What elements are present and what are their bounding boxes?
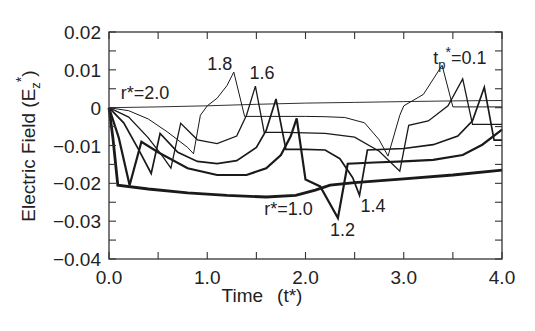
curve-label: tp*=0.1 bbox=[433, 44, 486, 72]
curve-label: r*=1.0 bbox=[264, 199, 313, 219]
y-tick-label: −0.02 bbox=[53, 173, 101, 194]
y-tick-label: 0 bbox=[90, 98, 101, 119]
series-line-5 bbox=[109, 108, 502, 197]
y-tick-label: −0.03 bbox=[53, 211, 101, 232]
curve-label: 1.4 bbox=[361, 196, 386, 216]
curve-annotations: r*=2.01.81.6tp*=0.1r*=1.01.41.2 bbox=[121, 44, 487, 239]
curve-label: 1.6 bbox=[249, 63, 274, 83]
electric-field-chart: 0.01.02.03.04.00.020.010−0.01−0.02−0.03−… bbox=[0, 0, 535, 331]
curve-label: 1.2 bbox=[330, 220, 355, 240]
y-tick-label: 0.02 bbox=[64, 22, 101, 43]
y-tick-label: 0.01 bbox=[64, 60, 101, 81]
x-tick-label: 4.0 bbox=[489, 267, 515, 288]
x-tick-label: 1.0 bbox=[194, 267, 220, 288]
x-tick-label: 0.0 bbox=[96, 267, 122, 288]
y-tick-label: −0.01 bbox=[53, 136, 101, 157]
curve-label: 1.8 bbox=[207, 54, 232, 74]
x-tick-label: 3.0 bbox=[391, 267, 417, 288]
y-tick-label: −0.04 bbox=[53, 249, 102, 270]
x-axis-title: Time(t*) bbox=[222, 285, 303, 306]
y-axis-title: Electric Field (Ez*) bbox=[13, 70, 43, 221]
curve-label: r*=2.0 bbox=[121, 83, 170, 103]
